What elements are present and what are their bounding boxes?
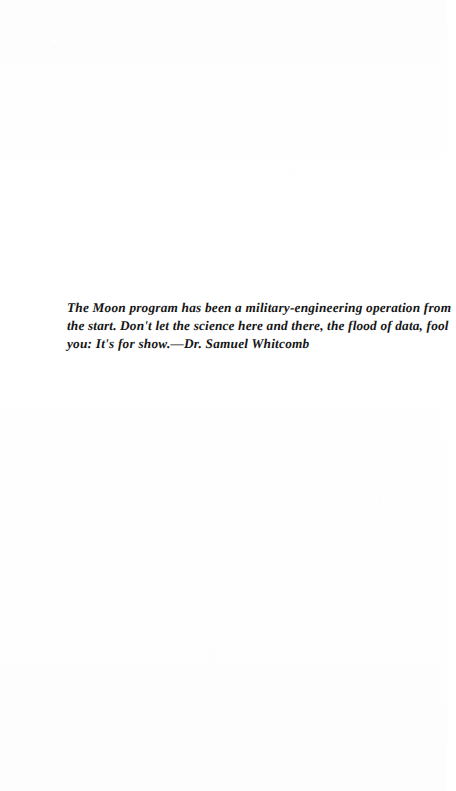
epigraph-line-2: the start. Don't let the science here an…	[67, 317, 456, 335]
epigraph-quote-block: The Moon program has been a military-eng…	[67, 299, 456, 354]
epigraph-line-1: The Moon program has been a military-eng…	[67, 299, 456, 317]
epigraph-line-3: you: It's for show.—Dr. Samuel Whitcomb	[67, 335, 456, 353]
